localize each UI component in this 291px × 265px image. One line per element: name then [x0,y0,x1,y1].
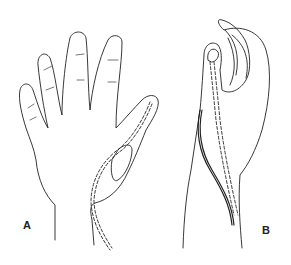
panel-a-hand [19,32,158,250]
panel-label-b: B [262,224,270,236]
panel-b-hand [183,20,269,248]
panel-label-a: A [23,219,31,231]
hand-illustration [0,0,291,265]
